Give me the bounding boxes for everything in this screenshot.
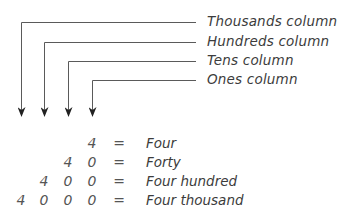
tens-column-label: Tens column [207, 52, 294, 68]
ones-digit: 4 [84, 135, 100, 151]
tens-digit: 0 [60, 192, 76, 208]
number-word: Four hundred [146, 173, 237, 189]
number-word: Four thousand [146, 192, 244, 208]
number-word: Four [146, 135, 176, 151]
thousands-digit: 4 [13, 192, 29, 208]
hundreds-digit: 0 [36, 192, 52, 208]
ones-digit: 0 [84, 173, 100, 189]
tens-arrow [69, 62, 197, 117]
ones-digit: 0 [84, 154, 100, 170]
thousands-arrow [22, 23, 197, 117]
tens-digit: 0 [60, 173, 76, 189]
ones-digit: 0 [84, 192, 100, 208]
equals-sign: = [113, 154, 125, 170]
hundreds-digit: 4 [36, 173, 52, 189]
equals-sign: = [113, 192, 125, 208]
hundreds-arrow [45, 43, 197, 117]
ones-arrow [93, 81, 197, 117]
tens-digit: 4 [60, 154, 76, 170]
hundreds-column-label: Hundreds column [207, 33, 329, 49]
equals-sign: = [113, 173, 125, 189]
equals-sign: = [113, 135, 125, 151]
number-word: Forty [146, 154, 181, 170]
ones-column-label: Ones column [207, 71, 298, 87]
thousands-column-label: Thousands column [207, 13, 337, 29]
